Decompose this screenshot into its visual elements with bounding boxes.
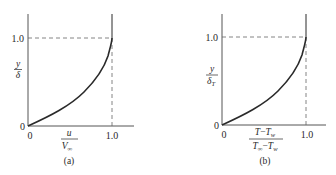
panel-b-caption: (b): [259, 156, 270, 167]
panel-b-x-tick-0: 0: [222, 129, 227, 140]
panel-b: 1.0 0 0 1.0 y δT T−Tw T∞−Tw (b): [206, 14, 327, 167]
panel-a-x-tick-1: 1.0: [106, 130, 119, 141]
panel-a-velocity-profile-curve: [28, 38, 112, 126]
panel-b-y-label-num: y: [209, 64, 215, 74]
panel-a: 1.0 0 0 1.0 y δ u V∞ (a): [12, 14, 135, 167]
panel-b-temperature-profile-curve: [222, 37, 306, 125]
panel-a-y-tick-1: 1.0: [12, 33, 25, 44]
panel-a-x-label-num: u: [67, 128, 72, 138]
panel-b-y-tick-0: 0: [214, 120, 219, 131]
panel-b-x-label-den: T∞−Tw: [253, 141, 279, 152]
panel-b-x-tick-1: 1.0: [301, 129, 314, 140]
panel-b-x-label-num: T−Tw: [255, 127, 276, 138]
panel-a-y-label-num: y: [15, 59, 21, 69]
panel-a-y-tick-0: 0: [20, 121, 25, 132]
panel-b-y-label-den: δT: [207, 76, 215, 87]
panel-a-x-tick-0: 0: [28, 130, 33, 141]
panel-a-caption: (a): [64, 156, 75, 167]
panel-b-y-tick-1: 1.0: [206, 32, 219, 43]
panel-a-y-label-den: δ: [16, 70, 21, 80]
figure-canvas: 1.0 0 0 1.0 y δ u V∞ (a) 1.0 0 0 1.0: [0, 0, 336, 175]
panel-a-x-label-den: V∞: [62, 141, 73, 152]
